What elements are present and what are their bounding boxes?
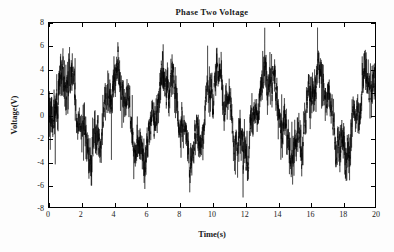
x-tick-label: 4 xyxy=(112,210,116,219)
x-tick-mark xyxy=(147,203,148,207)
x-tick-label: 20 xyxy=(372,210,380,219)
y-tick-mark-right xyxy=(371,163,375,164)
y-tick-mark-right xyxy=(371,116,375,117)
figure-container: Phase Two Voltage 02468101214161820 8642… xyxy=(0,0,394,252)
x-tick-mark-top xyxy=(213,23,214,27)
y-tick-mark xyxy=(49,46,53,47)
x-tick-label: 12 xyxy=(241,210,249,219)
x-tick-mark-top xyxy=(279,23,280,27)
y-tick-mark xyxy=(49,116,53,117)
x-tick-label: 14 xyxy=(274,210,282,219)
x-tick-label: 8 xyxy=(177,210,181,219)
x-tick-mark xyxy=(311,203,312,207)
y-tick-mark-right xyxy=(371,186,375,187)
y-tick-label: -8 xyxy=(37,204,44,213)
y-tick-label: 4 xyxy=(40,64,44,73)
x-tick-label: 10 xyxy=(208,210,216,219)
x-tick-mark xyxy=(115,203,116,207)
y-tick-mark-right xyxy=(371,46,375,47)
y-axis-label: Voltage(V) xyxy=(9,96,19,135)
page-title: Phase Two Voltage xyxy=(48,7,376,17)
y-tick-label: -2 xyxy=(37,134,44,143)
waveform-polyline xyxy=(49,28,375,198)
x-tick-mark xyxy=(279,203,280,207)
plot-area xyxy=(48,22,376,208)
x-tick-mark xyxy=(246,203,247,207)
x-tick-mark xyxy=(49,203,50,207)
y-tick-mark-right xyxy=(371,23,375,24)
y-tick-label: 6 xyxy=(40,41,44,50)
x-tick-mark xyxy=(82,203,83,207)
y-tick-label: 8 xyxy=(40,18,44,27)
x-tick-mark-top xyxy=(344,23,345,27)
x-tick-label: 18 xyxy=(339,210,347,219)
x-tick-label: 0 xyxy=(46,210,50,219)
y-tick-mark xyxy=(49,186,53,187)
x-tick-label: 6 xyxy=(144,210,148,219)
x-tick-label: 2 xyxy=(79,210,83,219)
x-tick-mark-top xyxy=(246,23,247,27)
x-tick-mark-top xyxy=(147,23,148,27)
y-tick-label: 0 xyxy=(40,111,44,120)
signal-waveform xyxy=(49,23,375,207)
x-tick-mark-top xyxy=(311,23,312,27)
y-tick-mark xyxy=(49,70,53,71)
x-tick-mark xyxy=(213,203,214,207)
y-tick-mark xyxy=(49,139,53,140)
y-tick-mark-right xyxy=(371,70,375,71)
y-tick-mark-right xyxy=(371,93,375,94)
x-tick-mark-top xyxy=(82,23,83,27)
y-tick-mark xyxy=(49,93,53,94)
x-tick-mark xyxy=(180,203,181,207)
y-tick-label: -4 xyxy=(37,157,44,166)
x-tick-mark xyxy=(344,203,345,207)
y-tick-mark xyxy=(49,23,53,24)
x-tick-mark-top xyxy=(115,23,116,27)
y-tick-label: 2 xyxy=(40,87,44,96)
x-tick-mark-top xyxy=(180,23,181,27)
x-axis-label: Time(s) xyxy=(48,229,376,239)
y-tick-mark-right xyxy=(371,139,375,140)
y-tick-mark xyxy=(49,163,53,164)
x-tick-label: 16 xyxy=(306,210,314,219)
y-tick-label: -6 xyxy=(37,180,44,189)
